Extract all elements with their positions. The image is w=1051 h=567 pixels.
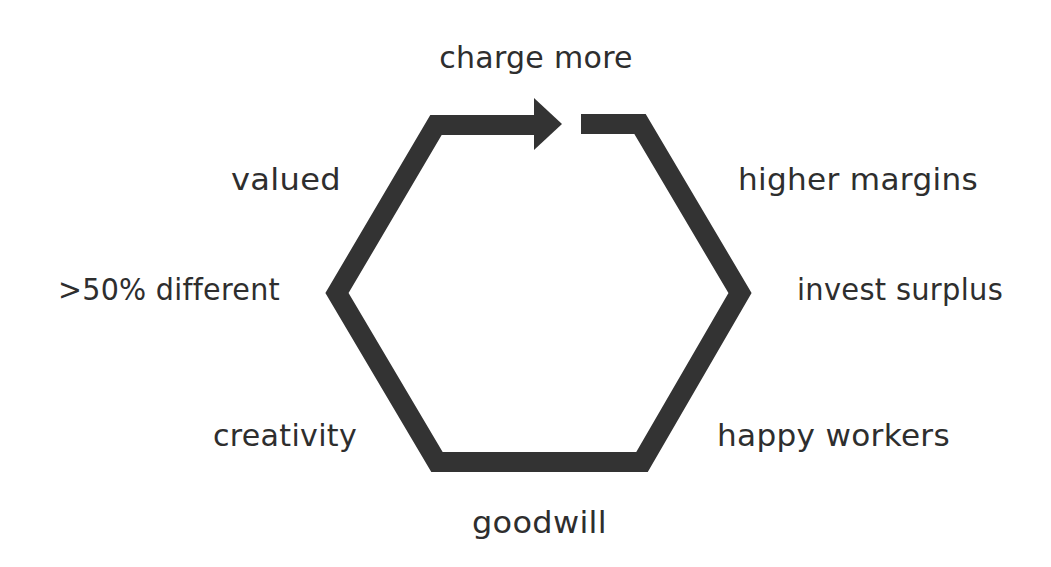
label-lower-right: happy workers <box>717 418 950 453</box>
hexagon-cycle-shape <box>337 98 740 462</box>
label-top: charge more <box>439 40 633 75</box>
label-right: invest surplus <box>797 272 1003 307</box>
label-lower-left: creativity <box>213 418 357 453</box>
label-upper-right: higher margins <box>738 162 978 197</box>
hexagon-stroke <box>337 124 740 462</box>
label-bottom: goodwill <box>472 505 607 540</box>
cycle-diagram: charge more higher margins invest surplu… <box>0 0 1051 567</box>
arrow-head-icon <box>534 98 562 150</box>
label-upper-left: valued <box>231 162 341 197</box>
label-left: >50% different <box>58 272 280 307</box>
